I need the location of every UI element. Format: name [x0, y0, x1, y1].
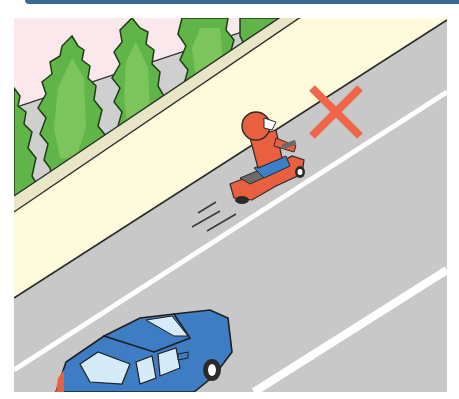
road-scene-illustration — [14, 18, 447, 392]
header-bar — [25, 0, 459, 4]
illustration-page — [0, 0, 459, 399]
